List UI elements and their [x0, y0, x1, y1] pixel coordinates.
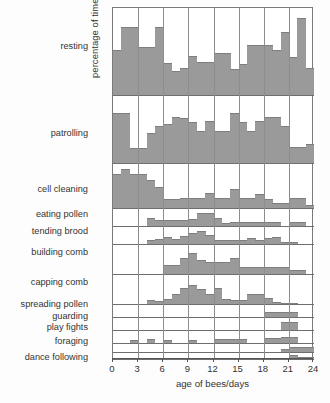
x-tick-label-3: 3 [134, 363, 139, 374]
row-label-patrolling: patrolling [51, 128, 88, 138]
x-tick-label-15: 15 [232, 363, 243, 374]
x-tick-label-12: 12 [207, 363, 218, 374]
row-label-foraging: foraging [55, 336, 88, 346]
row-label-column: restingpatrollingcell cleaningeating pol… [0, 0, 88, 403]
row-label-capping-comb: capping comb [31, 277, 88, 287]
x-tick-label-21: 21 [283, 363, 294, 374]
x-tick-9 [187, 358, 188, 362]
bar [306, 144, 314, 163]
plot-area [112, 7, 313, 358]
x-tick-0 [112, 358, 113, 362]
x-tick-24 [312, 358, 313, 362]
row-label-spreading-pollen: spreading pollen [21, 299, 88, 309]
x-tick-3 [137, 358, 138, 362]
bar [306, 68, 314, 95]
row-label-play-fights: play fights [47, 322, 88, 332]
row-label-guarding: guarding [52, 311, 88, 321]
x-tick-12 [213, 358, 214, 362]
row-label-eating-pollen: eating pollen [36, 209, 88, 219]
row-label-resting: resting [60, 41, 88, 51]
gridline-x-3 [138, 8, 139, 358]
gridline-x-21 [289, 8, 290, 358]
bee-occupation-chart: restingpatrollingcell cleaningeating pol… [0, 0, 330, 403]
row-label-dance-following: dance following [25, 352, 88, 362]
gridline-x-6 [163, 8, 164, 358]
x-tick-label-6: 6 [160, 363, 165, 374]
x-tick-15 [238, 358, 239, 362]
row-label-tending-brood: tending brood [32, 226, 88, 236]
gridline-x-12 [214, 8, 215, 358]
row-label-cell-cleaning: cell cleaning [37, 184, 88, 194]
row-label-building-comb: building comb [31, 247, 88, 257]
gridline-x-15 [239, 8, 240, 358]
x-tick-6 [162, 358, 163, 362]
x-tick-label-18: 18 [257, 363, 268, 374]
x-tick-label-24: 24 [308, 363, 319, 374]
panel-separator [113, 359, 314, 360]
gridline-x-9 [188, 8, 189, 358]
y-axis-title: percentage of time spent in each occupat… [89, 0, 100, 78]
gridline-x-18 [264, 8, 265, 358]
x-tick-label-0: 0 [109, 363, 114, 374]
x-axis-title: age of bees/days [112, 378, 313, 389]
bar [289, 322, 298, 330]
x-tick-label-9: 9 [185, 363, 190, 374]
x-tick-21 [288, 358, 289, 362]
x-tick-18 [263, 358, 264, 362]
